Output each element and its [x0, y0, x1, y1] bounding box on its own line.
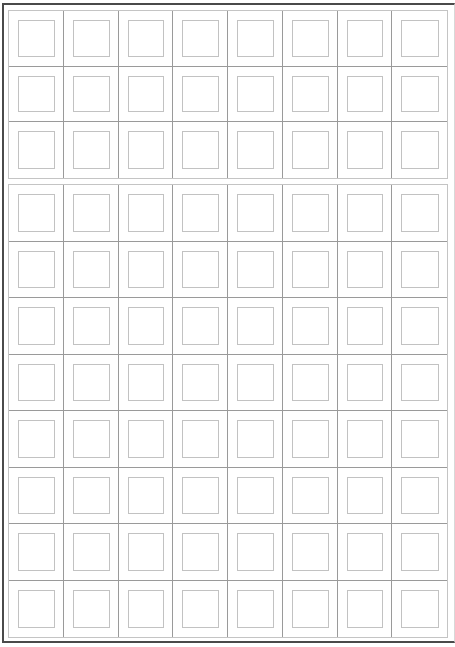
- grid-cell: [119, 411, 174, 468]
- grid-cell: [119, 242, 174, 299]
- grid-cell: [9, 298, 64, 355]
- grid-cell: [283, 468, 338, 525]
- writing-box: [347, 533, 384, 571]
- grid-cell: [64, 524, 119, 581]
- writing-box: [401, 477, 439, 515]
- writing-box: [73, 307, 110, 345]
- writing-box: [292, 590, 329, 629]
- grid-cell: [9, 11, 64, 67]
- writing-box: [18, 533, 55, 571]
- grid-cell: [119, 185, 174, 242]
- grid-cell: [173, 581, 228, 638]
- writing-box: [237, 420, 274, 458]
- writing-box: [401, 307, 439, 345]
- grid-cell: [283, 67, 338, 123]
- writing-box: [347, 194, 384, 232]
- grid-cell: [228, 298, 283, 355]
- grid-cell: [228, 581, 283, 638]
- grid-cell: [228, 122, 283, 178]
- writing-box: [18, 251, 55, 289]
- grid-cell: [173, 298, 228, 355]
- grid-cell: [9, 581, 64, 638]
- grid-cell: [283, 581, 338, 638]
- grid-cell: [283, 122, 338, 178]
- grid-cell: [392, 581, 447, 638]
- grid-cell: [228, 242, 283, 299]
- grid-cell: [9, 67, 64, 123]
- writing-box: [182, 307, 219, 345]
- writing-box: [182, 131, 219, 169]
- writing-box: [128, 533, 165, 571]
- grid-cell: [9, 468, 64, 525]
- grid-cell: [228, 355, 283, 412]
- writing-box: [237, 477, 274, 515]
- grid-cell: [119, 298, 174, 355]
- grid-cell: [9, 185, 64, 242]
- writing-box: [292, 131, 329, 169]
- writing-box: [182, 76, 219, 113]
- grid-cell: [392, 468, 447, 525]
- writing-box: [237, 20, 274, 57]
- grid-cell: [392, 11, 447, 67]
- writing-box: [128, 590, 165, 629]
- grid-cell: [173, 242, 228, 299]
- writing-box: [18, 477, 55, 515]
- grid-cell: [64, 185, 119, 242]
- grid-cell: [173, 411, 228, 468]
- writing-box: [18, 364, 55, 402]
- grid-block-top: [8, 10, 448, 179]
- grid-cell: [173, 122, 228, 178]
- grid-cell: [228, 524, 283, 581]
- writing-box: [237, 76, 274, 113]
- writing-box: [128, 194, 165, 232]
- grid-cell: [392, 411, 447, 468]
- writing-box: [401, 194, 439, 232]
- grid-cell: [228, 411, 283, 468]
- grid-cell: [9, 122, 64, 178]
- writing-box: [292, 194, 329, 232]
- grid-cell: [173, 468, 228, 525]
- grid-cell: [228, 185, 283, 242]
- writing-box: [73, 251, 110, 289]
- writing-box: [237, 194, 274, 232]
- writing-box: [18, 76, 55, 113]
- writing-box: [182, 20, 219, 57]
- writing-box: [73, 131, 110, 169]
- grid-cell: [392, 122, 447, 178]
- writing-box: [18, 307, 55, 345]
- grid-cell: [338, 355, 393, 412]
- grid-cell: [173, 67, 228, 123]
- grid-cell: [338, 524, 393, 581]
- writing-box: [182, 477, 219, 515]
- grid-cell: [283, 524, 338, 581]
- writing-box: [292, 420, 329, 458]
- writing-box: [18, 131, 55, 169]
- writing-box: [18, 20, 55, 57]
- writing-box: [182, 420, 219, 458]
- writing-box: [18, 590, 55, 629]
- writing-box: [401, 590, 439, 629]
- grid-cell: [64, 355, 119, 412]
- grid-cell: [338, 468, 393, 525]
- writing-box: [237, 251, 274, 289]
- grid-cell: [173, 185, 228, 242]
- writing-box: [237, 364, 274, 402]
- grid-cell: [338, 122, 393, 178]
- writing-box: [347, 364, 384, 402]
- writing-box: [237, 533, 274, 571]
- writing-box: [182, 194, 219, 232]
- grid-cell: [9, 242, 64, 299]
- grid-cell: [119, 355, 174, 412]
- grid-cell: [64, 11, 119, 67]
- grid-cell: [9, 524, 64, 581]
- writing-box: [73, 420, 110, 458]
- grid-cell: [173, 355, 228, 412]
- writing-box: [73, 590, 110, 629]
- writing-box: [401, 131, 439, 169]
- writing-box: [401, 251, 439, 289]
- grid-cell: [119, 11, 174, 67]
- grid-cell: [228, 67, 283, 123]
- grid-cell: [9, 411, 64, 468]
- writing-box: [182, 590, 219, 629]
- writing-box: [347, 307, 384, 345]
